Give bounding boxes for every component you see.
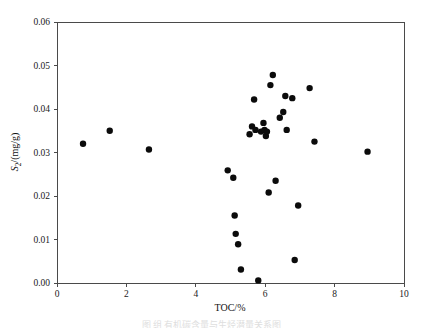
y-tick-label: 0.02	[33, 191, 50, 201]
data-point	[255, 277, 261, 283]
data-point	[267, 82, 273, 88]
data-point	[238, 266, 244, 272]
x-tick-label: 4	[193, 289, 198, 299]
y-tick-label: 0.04	[33, 104, 50, 114]
x-tick-label: 8	[332, 289, 337, 299]
data-point	[264, 128, 270, 134]
figure-caption: 图 组 有机碳含量与生烃潜量关系图	[0, 320, 423, 328]
y-tick-label: 0.06	[33, 17, 50, 27]
data-point	[311, 138, 317, 144]
data-point	[289, 95, 295, 101]
x-tick-label: 2	[124, 289, 129, 299]
plot-frame	[57, 22, 404, 283]
data-point	[251, 96, 257, 102]
x-axis-ticks: 0246810	[55, 283, 409, 299]
data-point	[282, 93, 288, 99]
data-point	[364, 148, 370, 154]
data-point	[277, 115, 283, 121]
y-axis-title-units: /(mg/g)	[9, 133, 21, 163]
y-tick-label: 0.01	[33, 235, 50, 245]
data-point	[235, 241, 241, 247]
data-point	[146, 146, 152, 152]
y-tick-label: 0.03	[33, 148, 50, 158]
data-point	[260, 120, 266, 126]
x-axis-title: TOC/%	[215, 302, 246, 313]
data-point	[270, 72, 276, 78]
x-tick-label: 6	[263, 289, 268, 299]
data-point	[280, 109, 286, 115]
y-tick-label: 0.00	[33, 278, 50, 288]
data-point	[246, 131, 252, 137]
data-points-layer	[80, 72, 371, 284]
data-point	[306, 85, 312, 91]
data-point	[80, 141, 86, 147]
data-point	[291, 257, 297, 263]
y-axis-title: S2/(mg/g)	[9, 133, 23, 172]
data-point	[252, 127, 258, 133]
data-point	[107, 128, 113, 134]
y-tick-label: 0.05	[33, 61, 50, 71]
svg-text:S2/(mg/g): S2/(mg/g)	[9, 133, 23, 172]
data-point	[272, 178, 278, 184]
data-point	[231, 212, 237, 218]
data-point	[233, 231, 239, 237]
data-point	[295, 202, 301, 208]
data-point	[284, 127, 290, 133]
y-axis-ticks: 0.000.010.020.030.040.050.06	[33, 17, 57, 288]
x-tick-label: 0	[55, 289, 60, 299]
data-point	[225, 167, 231, 173]
data-point	[230, 175, 236, 181]
data-point	[265, 189, 271, 195]
x-tick-label: 10	[399, 289, 409, 299]
